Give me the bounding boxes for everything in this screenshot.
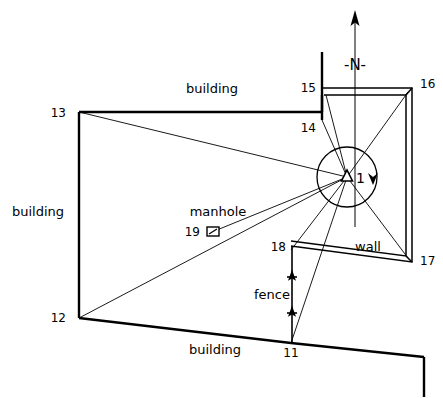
point-label-16: 16 [420, 77, 435, 91]
survey-plan-drawing: -N- [0, 0, 443, 398]
wall-face-outer [291, 88, 412, 262]
fence-marker-upper [290, 272, 295, 279]
point-label-13: 13 [51, 106, 66, 120]
sight-ray-to-16 [347, 92, 408, 177]
label-building-top: building [186, 81, 238, 96]
label-fence: fence [254, 287, 290, 302]
label-manhole: manhole [190, 204, 247, 219]
point-label-18: 18 [271, 240, 286, 254]
point-label-19: 19 [185, 225, 200, 239]
building-edge-bottom-right [291, 343, 424, 357]
point-label-17: 17 [420, 254, 435, 268]
building-edge-bottom-left [79, 318, 291, 343]
point-label-14: 14 [301, 121, 316, 135]
north-label: -N- [344, 56, 366, 74]
point-label-15: 15 [301, 81, 316, 95]
point-label-11: 11 [283, 346, 298, 360]
building-outline [79, 52, 424, 397]
label-building-bottom: building [189, 342, 241, 357]
label-building-left: building [12, 204, 64, 219]
station-label: 1 [356, 170, 365, 186]
fence-marker-lower [290, 308, 295, 315]
label-wall: wall [355, 239, 381, 254]
point-label-12: 12 [51, 311, 66, 325]
wall-corner-16 [406, 88, 412, 95]
survey-diagram-canvas: -N- [0, 0, 443, 398]
station-marker-group [317, 147, 378, 207]
manhole-symbol [207, 227, 219, 236]
wall-structure [291, 88, 412, 262]
north-arrow [351, 10, 360, 227]
